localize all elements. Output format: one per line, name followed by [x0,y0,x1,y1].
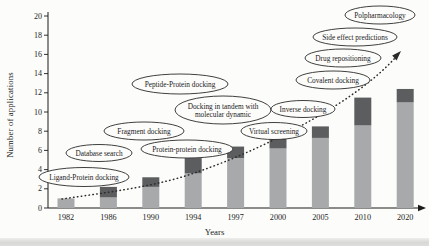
bar-segment-upper-2020 [397,89,414,102]
y-tick-label-0: 0 [38,204,42,213]
annotation-label-ligand-protein-docking: Ligand-Protein docking [49,173,119,182]
annotation-label-database-search: Database search [75,149,123,158]
annotation-fragment-docking: Fragment docking [104,122,184,140]
x-category-label-1997: 1997 [227,213,243,222]
bar-segment-lower-1982 [58,198,75,208]
bar-chart: 0246810121416182019821986199019941997200… [0,0,429,246]
annotation-ligand-protein-docking: Ligand-Protein docking [39,168,129,187]
x-category-label-2010: 2010 [355,213,371,222]
y-tick-label-10: 10 [34,108,42,117]
x-category-label-1982: 1982 [58,213,74,222]
x-axis-arrowhead [418,205,426,211]
y-tick-label-4: 4 [38,165,42,174]
bar-1990 [142,177,159,208]
annotation-label-protein-protein-docking: Protein-protein docking [152,145,222,154]
annotation-peptide-protein-docking: Peptide-Protein docking [132,74,228,94]
annotation-docking-in-tandem-with-molecular-dynamic: Docking in tandem withmolecular dynamic [175,96,271,124]
bar-1982 [58,198,75,208]
y-tick-label-12: 12 [34,88,42,97]
bar-segment-lower-1986 [100,197,117,208]
bar-segment-lower-2010 [354,125,371,208]
annotation-covalent-docking: Covalent docking [296,71,370,89]
annotation-database-search: Database search [66,145,132,162]
x-category-label-2005: 2005 [312,213,328,222]
y-tick-label-2: 2 [38,184,42,193]
x-category-label-1990: 1990 [143,213,159,222]
y-tick-label-20: 20 [34,12,42,21]
bar-2005 [312,126,329,208]
annotation-drug-repositioning: Drug repositioning [305,49,381,67]
bar-segment-lower-1994 [185,173,202,208]
annotation-label-covalent-docking: Covalent docking [307,76,359,85]
bar-1986 [100,187,117,208]
annotation-label-side-effect-predictions: Side effect predictions [322,33,388,42]
x-category-label-1994: 1994 [185,213,201,222]
annotation-polpharmacology: Polpharmacology [345,6,415,24]
bar-segment-lower-2000 [270,148,287,208]
y-axis-title: Number of applications [4,50,16,180]
annotation-label-drug-repositioning: Drug repositioning [315,54,371,63]
bar-segment-upper-2005 [312,126,329,138]
bar-segment-upper-2010 [354,98,371,126]
bar-1997 [227,147,244,208]
y-tick-label-6: 6 [38,146,42,155]
y-tick-label-18: 18 [34,31,42,40]
bar-2000 [270,139,287,208]
y-tick-label-14: 14 [34,69,42,78]
bar-2010 [354,98,371,208]
annotation-label-polpharmacology: Polpharmacology [354,11,406,20]
bar-segment-lower-2020 [397,102,414,208]
x-axis-title: Years [0,227,429,237]
annotation-label-inverse-docking: Inverse docking [280,105,327,114]
bar-segment-lower-1997 [227,158,244,208]
x-category-label-1986: 1986 [100,213,116,222]
annotation-inverse-docking: Inverse docking [271,101,335,118]
annotation-virtual-screening: Virtual screening [241,123,307,140]
bar-1994 [185,158,202,208]
bar-segment-lower-1990 [142,187,159,208]
chart-figure: 0246810121416182019821986199019941997200… [0,0,429,246]
x-category-label-2000: 2000 [270,213,286,222]
bar-segment-lower-2005 [312,138,329,208]
annotation-label-virtual-screening: Virtual screening [249,127,299,136]
x-category-label-2020: 2020 [397,213,413,222]
annotation-label-peptide-protein-docking: Peptide-Protein docking [145,80,216,89]
y-tick-label-8: 8 [38,127,42,136]
scan-artifact-band [0,238,429,246]
annotation-side-effect-predictions: Side effect predictions [313,28,397,46]
annotation-label-docking-in-tandem-with-molecular-dynamic: molecular dynamic [195,110,252,119]
y-tick-label-16: 16 [34,50,42,59]
bar-2020 [397,89,414,208]
annotation-protein-protein-docking: Protein-protein docking [141,140,233,158]
annotation-label-fragment-docking: Fragment docking [117,127,171,136]
